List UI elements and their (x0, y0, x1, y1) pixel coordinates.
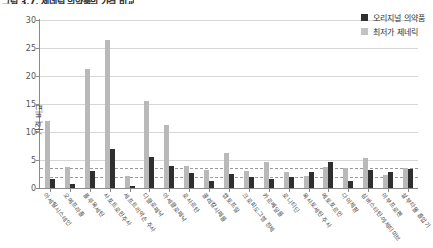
y-axis-tick-mark (36, 132, 40, 133)
bar-original (50, 179, 55, 188)
x-axis-tick-mark (408, 188, 409, 192)
bar-group (382, 172, 394, 188)
bar-group (183, 166, 195, 188)
bar-group (124, 176, 136, 188)
x-axis-tick-label: 살부타몰 흡입기 (400, 191, 433, 229)
bar-group (283, 172, 295, 188)
y-axis-tick-label: 15 (26, 100, 36, 109)
y-axis-tick-label: 10 (26, 128, 36, 137)
x-axis-tick-mark (209, 188, 210, 192)
bar-original (388, 172, 393, 188)
bar-group (143, 101, 155, 188)
bar-original (309, 172, 314, 188)
bar-group (223, 153, 235, 188)
bar-original (189, 173, 194, 188)
gridline (40, 132, 418, 133)
x-axis-tick-mark (348, 188, 349, 192)
gridline (40, 48, 418, 49)
x-axis-tick-mark (328, 188, 329, 192)
legend-swatch-generic-icon (361, 28, 368, 35)
y-axis-tick-mark (36, 188, 40, 189)
bar-group (362, 158, 374, 188)
bar-original (289, 177, 294, 188)
bar-original (269, 179, 274, 188)
plot-area: 가격 비교 051015202530 (40, 20, 418, 188)
chart-title: 그림 3.7. 제네릭 의약품의 가격 비교 (2, 0, 134, 4)
bar-group (322, 162, 334, 188)
bar-group (84, 69, 96, 188)
y-axis-tick-mark (36, 76, 40, 77)
y-axis-tick-label: 20 (26, 72, 36, 81)
x-axis-tick-mark (169, 188, 170, 192)
bar-generic (85, 69, 90, 188)
legend-label-generic: 최저가 제네릭 (373, 26, 418, 37)
bar-original (229, 174, 234, 188)
bar-original (368, 170, 373, 188)
gridline (40, 104, 418, 105)
bar-group (203, 170, 215, 188)
x-axis-tick-mark (388, 188, 389, 192)
legend-swatch-original-icon (361, 14, 368, 21)
bar-group (44, 121, 56, 188)
legend-item-generic: 최저가 제네릭 (361, 26, 425, 37)
y-axis-tick-label: 25 (26, 44, 36, 53)
bar-group (342, 168, 354, 188)
bar-original (110, 149, 115, 188)
legend-item-original: 오리지널 의약품 (361, 12, 425, 23)
chart-legend: 오리지널 의약품 최저가 제네릭 (361, 12, 425, 40)
x-axis-tick-mark (229, 188, 230, 192)
bar-original (408, 169, 413, 188)
bar-original (149, 157, 154, 188)
bar-group (303, 172, 315, 188)
gridline (40, 76, 418, 77)
y-axis-tick-mark (36, 20, 40, 21)
bar-original (90, 171, 95, 188)
bar-original (209, 181, 214, 188)
bar-group (163, 125, 175, 188)
y-axis-tick-mark (36, 48, 40, 49)
x-axis-tick-mark (189, 188, 190, 192)
y-axis-tick-mark (36, 160, 40, 161)
bar-original (249, 177, 254, 188)
bar-group (263, 162, 275, 188)
bar-group (104, 40, 116, 188)
bar-original (169, 166, 174, 188)
bar-group (64, 167, 76, 188)
legend-label-original: 오리지널 의약품 (373, 12, 425, 23)
bar-group (243, 171, 255, 188)
x-axis-tick-label: 다이제팜 (340, 191, 361, 215)
x-axis-tick-mark (368, 188, 369, 192)
x-axis-tick-mark (149, 188, 150, 192)
bar-group (402, 168, 414, 188)
bar-original (328, 162, 333, 188)
bar-original (348, 181, 353, 188)
y-axis-tick-label: 30 (26, 16, 36, 25)
y-axis-tick-mark (36, 104, 40, 105)
bar-generic (45, 121, 50, 188)
